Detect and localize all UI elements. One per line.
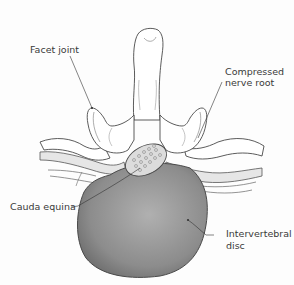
label-facet-joint: Facet joint <box>30 44 79 55</box>
label-intervertebral-disc-2: disc <box>226 240 245 251</box>
label-compressed-nerve-root-2: nerve root <box>225 77 274 88</box>
label-intervertebral-disc-1: Intervertebral <box>226 228 292 239</box>
spinous-process <box>133 28 163 120</box>
label-compressed-nerve-root-1: Compressed <box>225 66 284 77</box>
vertebra-illustration <box>0 0 294 285</box>
diagram-canvas: Facet joint Compressed nerve root Cauda … <box>0 0 294 285</box>
label-cauda-equina: Cauda equina <box>10 201 76 212</box>
